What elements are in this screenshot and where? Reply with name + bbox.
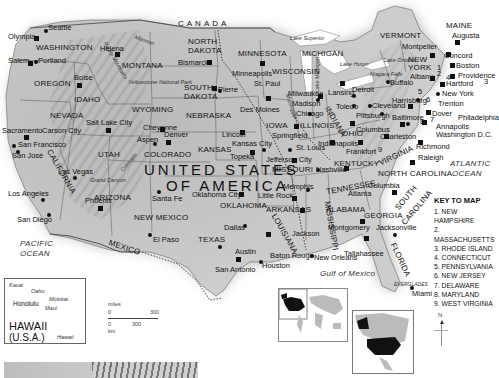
- city-honolulu: Honolulu: [13, 301, 39, 308]
- state-number-5: 5: [418, 88, 422, 96]
- city-columbia: Columbia: [368, 182, 400, 190]
- key-item: 4. CONNECTICUT: [434, 253, 494, 262]
- city-dover: Dover: [432, 110, 452, 118]
- city-santa-fe: Santa Fe: [152, 195, 182, 203]
- city-san-antonio: San Antonio: [215, 266, 255, 274]
- city-denver: Denver: [164, 131, 188, 139]
- scale-km-start: 0: [108, 322, 111, 328]
- city-montpelier: Montpelier: [402, 43, 437, 51]
- city-richmond: Richmond: [416, 143, 450, 151]
- state-alabama: ALABAMA: [326, 206, 365, 214]
- state-illinois: ILLINOIS: [300, 122, 335, 130]
- city-austin: Austin: [235, 248, 256, 256]
- state-michigan: MICHIGAN: [302, 50, 344, 58]
- city-san-diego: San Diego: [17, 216, 52, 224]
- city-dallas: Dallas: [224, 224, 245, 232]
- state-maine: MAINE: [446, 22, 472, 30]
- state-utah: UTAH: [98, 151, 120, 159]
- city-las-vegas: Las Vegas: [58, 168, 93, 176]
- key-item: 9. WEST VIRGINIA: [434, 299, 494, 308]
- state-iowa: IOWA: [266, 122, 288, 130]
- city-marker: [393, 233, 397, 237]
- city-minneapolis: Minneapolis: [232, 70, 272, 78]
- city-marker: [41, 198, 45, 202]
- state-idaho: IDAHO: [74, 96, 100, 104]
- city-providence: Providence: [458, 72, 496, 80]
- island-maui: Maui: [45, 306, 57, 312]
- north-america-locator-map: [352, 310, 414, 374]
- city-baltimore: Baltimore: [392, 114, 424, 122]
- capital-marker: [98, 206, 103, 211]
- city-seattle: Seattle: [48, 24, 71, 32]
- hawaii-title: HAWAII: [9, 321, 47, 332]
- state-texas: TEXAS: [198, 236, 225, 244]
- city-des-moines: Des Moines: [240, 106, 280, 114]
- state-south-dakota-2: DAKOTA: [184, 93, 218, 101]
- capital-marker: [410, 160, 415, 165]
- state-number-3: 3: [484, 78, 488, 86]
- capital-marker: [340, 81, 345, 86]
- city-charleston: Charleston: [380, 133, 416, 141]
- city-oklahoma-city: Oklahoma City: [192, 191, 241, 199]
- capital-marker: [350, 121, 355, 126]
- capital-marker: [266, 232, 271, 237]
- scale-miles-end: 300: [150, 310, 159, 316]
- city-madison: Madison: [292, 100, 320, 108]
- city-montgomery: Montgomery: [328, 224, 370, 232]
- city-concord: Concord: [444, 52, 472, 60]
- grand-canyon-label: Grand Canyon: [90, 178, 126, 184]
- city-marker: [262, 148, 266, 152]
- city-salt-lake: Salt Lake City: [86, 119, 132, 127]
- lake-huron-label: Lake Huron: [340, 62, 368, 68]
- state-washington: WASHINGTON: [36, 44, 93, 52]
- state-wyoming: WYOMING: [132, 106, 173, 114]
- capital-marker: [106, 128, 111, 133]
- world-locator-map: [278, 288, 348, 342]
- city-jacksonville: Jacksonville: [376, 224, 416, 232]
- city-trenton: Trenton: [438, 100, 464, 108]
- state-wisconsin: WISCONSIN: [272, 68, 320, 76]
- city-baton-rouge: Baton Rouge: [270, 252, 314, 260]
- state-vermont: VERMONT: [380, 32, 421, 40]
- key-item: 5. PENNSYLVANIA: [434, 262, 494, 271]
- city-washington-dc: Washington D.C.: [436, 131, 492, 139]
- city-milwaukee: Milwaukee: [288, 90, 323, 98]
- key-item: 6. NEW JERSEY: [434, 271, 494, 280]
- capital-marker: [294, 124, 299, 129]
- city-houston: Houston: [262, 262, 290, 270]
- state-montana: MONTANA: [122, 62, 163, 70]
- capital-marker: [236, 257, 241, 262]
- city-new-york: New York: [442, 90, 474, 98]
- island-kauai: Kauai: [9, 283, 23, 289]
- city-marker: [73, 176, 77, 180]
- compass-n: N: [438, 312, 442, 318]
- capital-marker: [430, 53, 435, 58]
- city-marker: [406, 122, 410, 126]
- capital-marker: [455, 40, 460, 45]
- photo-strip: [4, 362, 198, 378]
- city-atlanta: Atlanta: [348, 190, 371, 198]
- city-helena: Helena: [100, 45, 124, 53]
- city-kansas-city: Kansas City: [232, 140, 272, 148]
- city-marker: [148, 233, 152, 237]
- city-salem: Salem: [8, 57, 29, 65]
- east-west-line: [434, 330, 448, 331]
- city-albany: Albany: [410, 73, 433, 81]
- key-item: 3. RHODE ISLAND: [434, 244, 494, 253]
- state-number-8: 8: [420, 118, 424, 126]
- atlantic-ocean-label-2: OCEAN: [452, 170, 482, 178]
- city-marker: [288, 148, 292, 152]
- hawaii-inset: Kauai Oahu Honolulu Molokai Maui Hawaii …: [4, 278, 86, 344]
- map-key: KEY TO MAP 1. NEW HAMPSHIRE 2. MASSACHUS…: [434, 196, 494, 308]
- state-north-dakota-1: NORTH: [188, 38, 217, 46]
- capital-marker: [212, 86, 217, 91]
- capital-marker: [440, 82, 445, 87]
- state-kansas: KANSAS: [198, 146, 232, 154]
- city-frankfort: Frankfort: [346, 148, 376, 156]
- capital-marker: [166, 140, 171, 145]
- state-new-york-2: YORK: [408, 64, 431, 72]
- city-san-francisco: San Francisco: [18, 141, 66, 149]
- city-miami: Miami: [412, 290, 432, 298]
- city-augusta: Augusta: [452, 32, 480, 40]
- key-item: 8. MARYLAND: [434, 290, 494, 299]
